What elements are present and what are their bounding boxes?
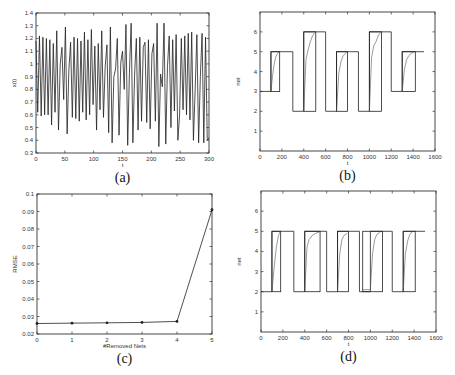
- figure-canvas: 0501001502002503000.30.40.50.60.70.80.91…: [0, 0, 455, 375]
- x-tick-label: 1600: [428, 154, 442, 160]
- y-tick-label: 0.04: [22, 296, 34, 302]
- x-tick-label: 1000: [363, 154, 377, 160]
- y-axis-label: net: [235, 77, 241, 86]
- series-line-x-t-: [36, 23, 209, 146]
- data-point-marker: [176, 320, 179, 323]
- x-tick-label: 1400: [407, 335, 421, 341]
- response-curve: [271, 52, 279, 92]
- x-tick-label: 200: [278, 335, 289, 341]
- y-tick-label: 0.6: [25, 112, 34, 118]
- response-curve: [304, 33, 315, 111]
- y-tick-label: 2: [254, 108, 258, 114]
- y-tick-label: 0.08: [22, 226, 34, 232]
- y-tick-label: 0.5: [25, 125, 34, 131]
- y-tick-label: 0.09: [22, 209, 34, 215]
- panel-b-net-steps: 02004006008001000120014001600123456tnet(…: [235, 12, 442, 184]
- y-tick-label: 0.4: [25, 137, 34, 143]
- y-tick-label: 6: [255, 208, 259, 214]
- response-curve: [403, 231, 413, 291]
- x-tick-label: 4: [175, 337, 179, 343]
- x-tick-label: 0: [259, 335, 263, 341]
- y-axis-label: net: [236, 257, 242, 266]
- y-tick-label: 1.4: [25, 10, 34, 16]
- x-axis-label: t: [347, 160, 349, 166]
- response-curve: [338, 233, 348, 291]
- x-tick-label: 400: [299, 154, 310, 160]
- y-tick-label: 0.06: [22, 261, 34, 267]
- x-tick-label: 1: [70, 337, 74, 343]
- x-tick-label: 250: [175, 156, 186, 162]
- panel-caption: (c): [117, 351, 133, 367]
- x-tick-label: 50: [61, 156, 68, 162]
- y-axis-label: x(t): [11, 79, 17, 88]
- response-curve: [337, 52, 347, 112]
- data-point-marker: [211, 208, 214, 211]
- panel-caption: (b): [339, 168, 356, 184]
- data-point-marker: [71, 322, 74, 325]
- plot-frame: [37, 194, 212, 334]
- y-tick-label: 0.7: [25, 99, 34, 105]
- panel-c-rmse: 0123450.020.030.040.050.060.070.080.090.…: [12, 191, 214, 367]
- x-tick-label: 0: [35, 337, 39, 343]
- y-tick-label: 1.2: [25, 35, 34, 41]
- series-line-target: [261, 231, 425, 291]
- y-tick-label: 1.1: [25, 48, 34, 54]
- x-tick-label: 5: [210, 337, 214, 343]
- y-tick-label: 4: [254, 69, 258, 75]
- series-line-rmse: [37, 210, 212, 324]
- response-curve: [402, 52, 414, 92]
- plot-frame: [36, 13, 209, 153]
- x-tick-label: 0: [258, 154, 262, 160]
- x-axis-label: t: [122, 162, 124, 168]
- data-point-marker: [106, 321, 109, 324]
- panel-d-net-steps: 02004006008001000120014001600123456tnet(…: [236, 191, 443, 365]
- x-tick-label: 400: [300, 335, 311, 341]
- x-tick-label: 100: [89, 156, 100, 162]
- x-tick-label: 1600: [429, 335, 443, 341]
- x-tick-label: 1000: [364, 335, 378, 341]
- y-tick-label: 3: [255, 269, 259, 275]
- window-box: [272, 231, 281, 291]
- y-tick-label: 5: [254, 49, 258, 55]
- y-tick-label: 1: [254, 128, 258, 134]
- window-box: [271, 52, 280, 92]
- y-tick-label: 0.9: [25, 74, 34, 80]
- y-tick-label: 6: [254, 29, 258, 35]
- y-tick-label: 1: [255, 309, 259, 315]
- x-tick-label: 200: [277, 154, 288, 160]
- x-tick-label: 1200: [386, 335, 400, 341]
- data-point-marker: [36, 322, 39, 325]
- x-tick-label: 200: [146, 156, 157, 162]
- panel-caption: (a): [115, 170, 131, 186]
- window-box: [363, 231, 383, 291]
- x-tick-label: 300: [204, 156, 215, 162]
- x-tick-label: 600: [322, 335, 333, 341]
- y-tick-label: 0.8: [25, 86, 34, 92]
- panel-a-timeseries: 0501001502002503000.30.40.50.60.70.80.91…: [11, 10, 215, 186]
- y-tick-label: 4: [255, 248, 259, 254]
- series-line-target: [260, 32, 424, 111]
- y-tick-label: 0.05: [22, 279, 34, 285]
- x-tick-label: 1200: [385, 154, 399, 160]
- y-tick-label: 0.07: [22, 244, 34, 250]
- y-tick-label: 2: [255, 289, 259, 295]
- x-axis-label: #Removed Nets: [103, 343, 146, 349]
- x-tick-label: 1400: [406, 154, 420, 160]
- y-tick-label: 0.03: [22, 314, 34, 320]
- response-curve: [272, 231, 280, 291]
- x-axis-label: t: [348, 341, 350, 347]
- y-tick-label: 3: [254, 88, 258, 94]
- x-tick-label: 0: [34, 156, 38, 162]
- panel-caption: (d): [340, 349, 357, 365]
- window-box: [305, 231, 320, 291]
- x-tick-label: 600: [321, 154, 332, 160]
- y-tick-label: 1: [30, 61, 34, 67]
- y-tick-label: 0.1: [26, 191, 35, 197]
- y-tick-label: 5: [255, 228, 259, 234]
- y-axis-label: RMSE: [12, 255, 18, 272]
- y-tick-label: 0.02: [22, 331, 34, 337]
- data-point-marker: [141, 321, 144, 324]
- y-tick-label: 0.3: [25, 150, 34, 156]
- response-curve: [369, 33, 380, 111]
- response-curve: [363, 232, 381, 289]
